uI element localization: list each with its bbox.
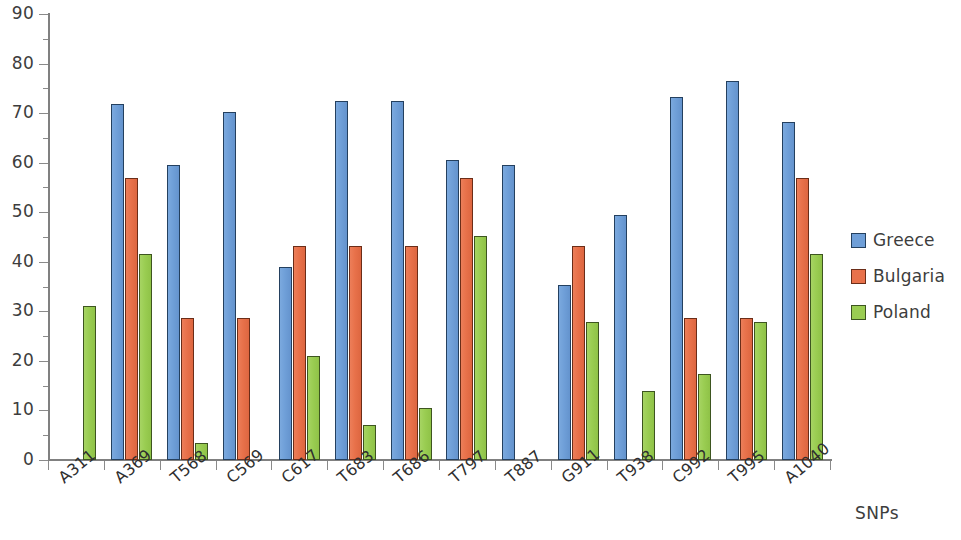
- y-axis-tick-label: 80: [0, 55, 34, 72]
- bar-group: [774, 14, 830, 460]
- bar-group-bars: [662, 14, 718, 460]
- bar-group-bars: [718, 14, 774, 460]
- y-axis-tick-label: 40: [0, 253, 34, 270]
- bar-group: [551, 14, 607, 460]
- bar-bulgaria: [572, 246, 585, 460]
- x-axis-tick: [383, 461, 384, 470]
- bar-bulgaria: [349, 246, 362, 460]
- x-axis-tick: [160, 461, 161, 470]
- legend-swatch-icon: [851, 305, 866, 320]
- y-axis: 0102030405060708090: [0, 0, 48, 540]
- bar-greece: [782, 122, 795, 460]
- y-axis-tick-label: 60: [0, 154, 34, 171]
- y-axis-tick-label: 90: [0, 5, 34, 22]
- bar-greece: [335, 101, 348, 460]
- bar-group: [495, 14, 551, 460]
- bar-group: [104, 14, 160, 460]
- x-axis-tick: [271, 461, 272, 470]
- y-axis-tick-label: 20: [0, 352, 34, 369]
- chart-legend: GreeceBulgariaPoland: [851, 222, 945, 330]
- bar-bulgaria: [125, 178, 138, 460]
- bar-bulgaria: [796, 178, 809, 460]
- x-axis-tick: [662, 461, 663, 470]
- bar-group: [216, 14, 272, 460]
- legend-item-label: Poland: [873, 304, 931, 321]
- bar-group: [327, 14, 383, 460]
- y-axis-major-tick: [39, 410, 48, 411]
- bar-group-bars: [216, 14, 272, 460]
- legend-item-bulgaria[interactable]: Bulgaria: [851, 258, 945, 294]
- bar-poland: [586, 322, 599, 460]
- bar-greece: [391, 101, 404, 460]
- bar-group: [439, 14, 495, 460]
- bar-greece: [670, 97, 683, 460]
- bar-greece: [167, 165, 180, 460]
- bar-greece: [223, 112, 236, 460]
- bar-bulgaria: [740, 318, 753, 460]
- bar-greece: [111, 104, 124, 460]
- x-axis-tick: [327, 461, 328, 470]
- y-axis-major-tick: [39, 14, 48, 15]
- x-axis-tick: [439, 461, 440, 470]
- bar-group-bars: [551, 14, 607, 460]
- bar-group-bars: [48, 14, 104, 460]
- bar-bulgaria: [237, 318, 250, 460]
- legend-item-poland[interactable]: Poland: [851, 294, 945, 330]
- bar-poland: [474, 236, 487, 460]
- bar-group: [607, 14, 663, 460]
- bar-greece: [614, 215, 627, 460]
- legend-item-greece[interactable]: Greece: [851, 222, 945, 258]
- y-axis-major-tick: [39, 64, 48, 65]
- y-axis-major-tick: [39, 163, 48, 164]
- bar-poland: [754, 322, 767, 460]
- y-axis-tick-label: 50: [0, 203, 34, 220]
- bar-group-bars: [327, 14, 383, 460]
- y-axis-tick-label: 0: [0, 451, 34, 468]
- y-axis-major-tick: [39, 361, 48, 362]
- bar-group-bars: [104, 14, 160, 460]
- legend-item-label: Bulgaria: [873, 268, 945, 285]
- bar-group-bars: [774, 14, 830, 460]
- x-axis-tick: [48, 461, 49, 470]
- bar-greece: [446, 160, 459, 460]
- bar-group-bars: [607, 14, 663, 460]
- bar-group-bars: [439, 14, 495, 460]
- bar-bulgaria: [181, 318, 194, 460]
- y-axis-major-tick: [39, 212, 48, 213]
- plot-area: [48, 14, 830, 460]
- bar-poland: [307, 356, 320, 460]
- bar-group: [271, 14, 327, 460]
- bar-chart: 0102030405060708090 A311A369T568C569C617…: [0, 0, 961, 540]
- bar-group-bars: [383, 14, 439, 460]
- x-axis-tick: [495, 461, 496, 470]
- x-axis-tick: [551, 461, 552, 470]
- bar-bulgaria: [684, 318, 697, 460]
- x-axis-tick: [104, 461, 105, 470]
- bar-greece: [502, 165, 515, 460]
- x-axis-tick: [607, 461, 608, 470]
- x-axis-title: SNPs: [855, 505, 899, 522]
- legend-item-label: Greece: [873, 232, 935, 249]
- x-axis-tick: [718, 461, 719, 470]
- bar-bulgaria: [405, 246, 418, 460]
- bar-group-bars: [271, 14, 327, 460]
- y-axis-major-tick: [39, 262, 48, 263]
- y-axis-major-tick: [39, 460, 48, 461]
- bar-bulgaria: [460, 178, 473, 460]
- bar-group: [383, 14, 439, 460]
- bar-group: [662, 14, 718, 460]
- bar-greece: [279, 267, 292, 460]
- bar-group: [160, 14, 216, 460]
- bar-group-bars: [495, 14, 551, 460]
- bar-group: [48, 14, 104, 460]
- x-axis-tick: [830, 461, 831, 470]
- bar-greece: [726, 81, 739, 460]
- bar-poland: [139, 254, 152, 460]
- y-axis-major-tick: [39, 311, 48, 312]
- y-axis-tick-label: 30: [0, 302, 34, 319]
- bar-group: [718, 14, 774, 460]
- y-axis-major-tick: [39, 113, 48, 114]
- legend-swatch-icon: [851, 269, 866, 284]
- bar-poland: [810, 254, 823, 460]
- bar-poland: [83, 306, 96, 460]
